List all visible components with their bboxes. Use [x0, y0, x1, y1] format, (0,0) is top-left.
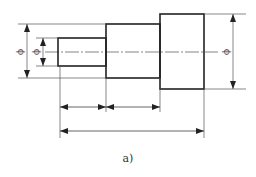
large-step [160, 14, 204, 89]
middle-step [106, 24, 160, 78]
diameter-symbol-left-outer: ϕ [15, 49, 25, 55]
length-extension-lines [60, 66, 204, 138]
shaft-drawing: ϕ ϕ ϕ [0, 0, 256, 177]
length-dimensions [60, 107, 204, 131]
figure-caption: a) [0, 152, 256, 165]
diameter-symbol-right: ϕ [221, 49, 231, 55]
diameter-symbol-left-inner: ϕ [31, 49, 41, 55]
